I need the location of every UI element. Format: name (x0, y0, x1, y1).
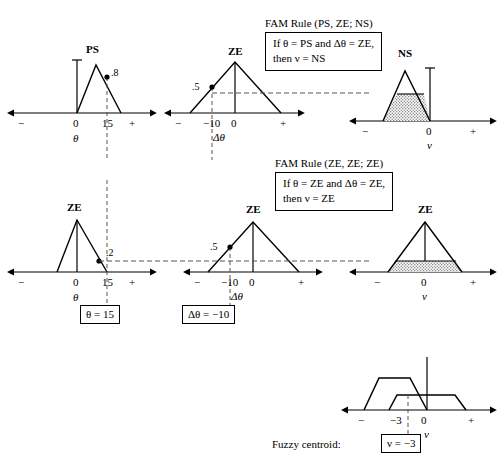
fam-rule-2-title: FAM Rule (ZE, ZE; ZE) (275, 158, 383, 169)
combined-tick-neg3: −3 (390, 415, 402, 426)
combined-axis-minus: − (358, 415, 364, 426)
row2-output-axis-plus: + (470, 277, 476, 288)
row1-dtheta-fit-value: .5 (192, 82, 200, 92)
row2-dtheta-tick-neg10: −10 (221, 277, 238, 288)
row1-output-set-label: NS (398, 48, 412, 59)
row2-theta-axis-label: θ (73, 292, 78, 303)
chart-row2-output (356, 222, 492, 272)
row1-output-axis-plus: + (470, 126, 476, 137)
row1-dtheta-axis-label: Δθ (213, 132, 225, 143)
row2-dtheta-axis-label: Δθ (231, 291, 243, 302)
fam-rule-1-line2: then ν = NS (273, 51, 374, 66)
row1-dtheta-axis-minus: − (175, 118, 181, 129)
row2-theta-axis-plus: + (129, 277, 135, 288)
row1-output-axis-minus: − (362, 126, 368, 137)
figure-canvas: FAM Rule (PS, ZE; NS) If θ = PS and Δθ =… (0, 0, 504, 461)
row1-theta-fit-value: .8 (111, 68, 119, 78)
row1-theta-axis-label: θ (73, 133, 78, 144)
row2-output-tick-zero: 0 (421, 277, 427, 288)
chart-combined-output (348, 357, 492, 440)
delta-theta-input-box: Δθ = −10 (182, 305, 235, 324)
row1-dtheta-set-label: ZE (228, 46, 243, 57)
row2-output-axis-minus: − (374, 277, 380, 288)
fam-rule-1-line1: If θ = PS and Δθ = ZE, (273, 36, 374, 51)
fuzzy-centroid-value-box: ν = −3 (381, 434, 421, 453)
fam-rule-1-title: FAM Rule (PS, ZE; NS) (265, 18, 373, 29)
row2-output-set-label: ZE (418, 204, 433, 215)
fam-rule-2-line1: If θ = ZE and Δθ = ZE, (283, 176, 385, 191)
row1-output-axis-label: ν (427, 140, 432, 151)
diagram-svg (0, 0, 504, 461)
row1-theta-set-label: PS (86, 44, 99, 55)
chart-row1-theta (14, 60, 152, 160)
row1-theta-tick-zero: 0 (73, 118, 79, 129)
row1-theta-tick-15: 15 (102, 118, 113, 129)
row1-dtheta-tick-zero: 0 (231, 118, 237, 129)
row1-theta-axis-plus: + (129, 118, 135, 129)
row1-theta-axis-minus: − (18, 118, 24, 129)
row1-output-tick-zero: 0 (426, 126, 432, 137)
row2-theta-tick-zero: 0 (73, 277, 79, 288)
theta-input-box: θ = 15 (80, 305, 120, 324)
chart-row2-theta (14, 180, 172, 320)
combined-axis-label: ν (424, 429, 429, 440)
row2-theta-axis-minus: − (18, 277, 24, 288)
row2-dtheta-axis-plus: + (298, 277, 304, 288)
combined-tick-zero: 0 (421, 415, 427, 426)
row2-dtheta-axis-minus: − (194, 277, 200, 288)
chart-row1-delta-theta (171, 62, 372, 160)
row1-dtheta-tick-neg10: −10 (203, 118, 220, 129)
row2-dtheta-tick-zero: 0 (249, 277, 255, 288)
row1-dtheta-axis-plus: + (280, 118, 286, 129)
row2-theta-set-label: ZE (67, 202, 82, 213)
row2-dtheta-set-label: ZE (246, 204, 261, 215)
row2-theta-fit-value: .2 (106, 248, 114, 258)
fam-rule-2-line2: then ν = ZE (283, 191, 385, 206)
chart-row1-output (356, 68, 492, 121)
row2-output-axis-label: ν (422, 291, 427, 302)
combined-axis-plus: + (468, 415, 474, 426)
fam-rule-1-box: If θ = PS and Δθ = ZE, then ν = NS (265, 32, 382, 71)
row2-theta-tick-15: 15 (102, 277, 113, 288)
row2-dtheta-fit-value: .5 (210, 242, 218, 252)
fuzzy-centroid-label: Fuzzy centroid: (272, 439, 341, 450)
fam-rule-2-box: If θ = ZE and Δθ = ZE, then ν = ZE (275, 172, 393, 211)
